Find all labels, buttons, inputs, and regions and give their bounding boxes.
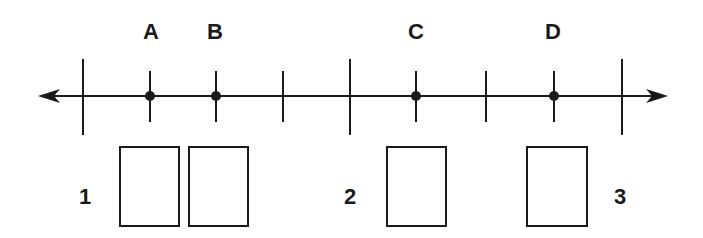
- number-label-1: 1: [79, 186, 91, 208]
- point-dot-d: [549, 91, 559, 101]
- point-dot-a: [145, 91, 155, 101]
- answer-box-b[interactable]: [188, 146, 249, 227]
- answer-box-d[interactable]: [526, 146, 588, 227]
- answer-box-c[interactable]: [386, 146, 447, 227]
- answer-box-a[interactable]: [119, 146, 180, 227]
- point-label-c: C: [408, 21, 424, 43]
- point-label-d: D: [545, 21, 561, 43]
- number-label-3: 3: [614, 186, 626, 208]
- point-dot-c: [411, 91, 421, 101]
- number-label-2: 2: [344, 186, 356, 208]
- point-label-b: B: [207, 21, 223, 43]
- point-label-a: A: [143, 21, 159, 43]
- number-line-diagram: A B C D 1 2 3: [0, 0, 703, 238]
- point-dot-b: [211, 91, 221, 101]
